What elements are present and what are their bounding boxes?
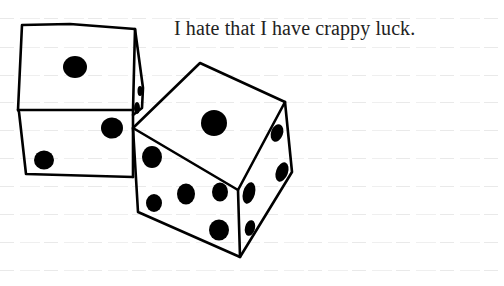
right-die-top-pips — [201, 110, 227, 136]
caption-text: I hate that I have crappy luck. — [174, 17, 415, 40]
lined-paper-canvas: I hate that I have crappy luck. — [0, 0, 504, 286]
left-die-front-pips — [34, 118, 123, 170]
left-die-top-pips — [63, 56, 87, 78]
dice-drawing — [0, 0, 504, 286]
